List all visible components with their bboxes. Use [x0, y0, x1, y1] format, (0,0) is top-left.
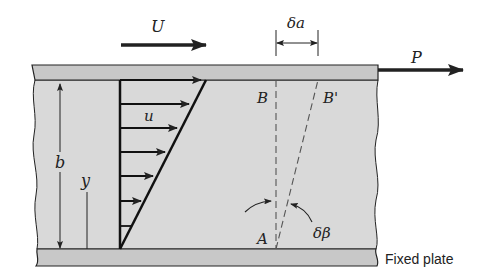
moving-top-plate: [32, 65, 378, 80]
fixed-bottom-plate: [36, 249, 378, 266]
delta-a-label: δa: [287, 14, 305, 32]
point-b-prime-label: B': [322, 89, 338, 107]
gap-b-label: b: [55, 153, 65, 172]
local-velocity-u-label: u: [144, 107, 154, 125]
velocity-u-label: U: [151, 17, 165, 36]
point-a-label: A: [255, 230, 268, 248]
shear-angle-label: δβ: [313, 224, 331, 242]
point-b-label: B: [256, 89, 268, 107]
fixed-plate-label: Fixed plate: [385, 251, 454, 267]
force-p-label: P: [410, 48, 422, 67]
couette-flow-diagram: U P δa u b y B B' A δβ Fixed plate: [0, 0, 493, 279]
height-y-label: y: [80, 171, 91, 190]
